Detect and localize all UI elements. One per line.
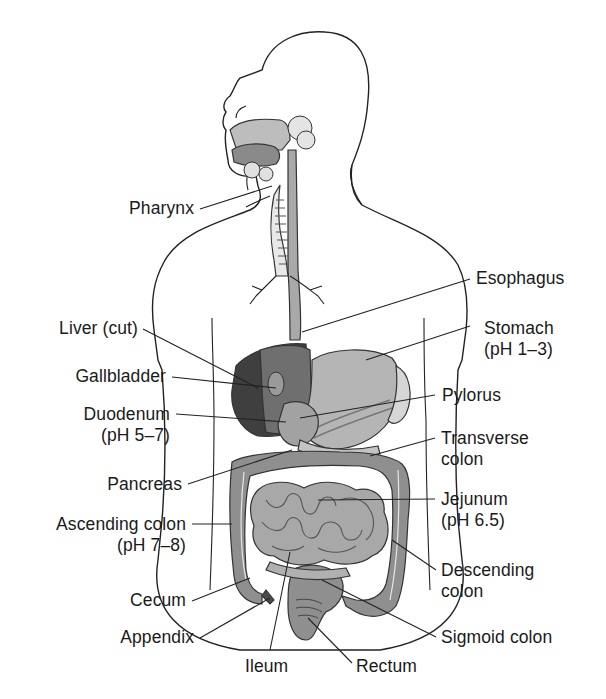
label-sigmoid-colon: Sigmoid colon — [441, 627, 552, 648]
label-rectum: Rectum — [356, 656, 417, 677]
label-ascending-colon: Ascending colon (pH 7–8) — [10, 514, 186, 556]
label-pancreas: Pancreas — [60, 474, 182, 495]
label-descending-colon-sub: colon — [441, 581, 534, 602]
label-sigmoid-colon-text: Sigmoid colon — [441, 627, 552, 647]
label-gallbladder-text: Gallbladder — [75, 366, 166, 386]
label-stomach-text: Stomach — [484, 318, 554, 339]
label-rectum-text: Rectum — [356, 656, 417, 676]
label-ascending-colon-ph: (pH 7–8) — [10, 535, 186, 556]
label-pharynx-text: Pharynx — [129, 198, 194, 218]
label-appendix: Appendix — [70, 627, 194, 648]
label-stomach: Stomach (pH 1–3) — [484, 318, 554, 360]
label-esophagus: Esophagus — [476, 268, 564, 289]
label-jejunum: Jejunum (pH 6.5) — [441, 489, 508, 531]
label-jejunum-ph: (pH 6.5) — [441, 510, 508, 531]
label-appendix-text: Appendix — [120, 627, 194, 647]
label-ileum: Ileum — [245, 656, 288, 677]
label-stomach-ph: (pH 1–3) — [484, 339, 554, 360]
gallbladder — [268, 372, 284, 396]
label-transverse-colon: Transverse colon — [441, 428, 529, 470]
label-pancreas-text: Pancreas — [107, 474, 182, 494]
label-transverse-colon-sub: colon — [441, 449, 529, 470]
label-esophagus-text: Esophagus — [476, 268, 564, 288]
label-pylorus-text: Pylorus — [442, 385, 501, 405]
label-descending-colon-text: Descending — [441, 560, 534, 581]
label-transverse-colon-text: Transverse — [441, 428, 529, 449]
label-duodenum-text: Duodenum — [20, 404, 170, 425]
label-pylorus: Pylorus — [442, 385, 501, 406]
label-ascending-colon-text: Ascending colon — [10, 514, 186, 535]
label-liver: Liver (cut) — [30, 318, 138, 339]
label-pharynx: Pharynx — [92, 198, 194, 219]
label-jejunum-text: Jejunum — [441, 489, 508, 510]
label-cecum: Cecum — [80, 590, 186, 611]
label-gallbladder: Gallbladder — [20, 366, 166, 387]
label-ileum-text: Ileum — [245, 656, 288, 676]
label-cecum-text: Cecum — [130, 590, 186, 610]
label-descending-colon: Descending colon — [441, 560, 534, 602]
label-liver-text: Liver (cut) — [59, 318, 138, 338]
label-duodenum: Duodenum (pH 5–7) — [20, 404, 170, 446]
label-duodenum-ph: (pH 5–7) — [20, 425, 170, 446]
